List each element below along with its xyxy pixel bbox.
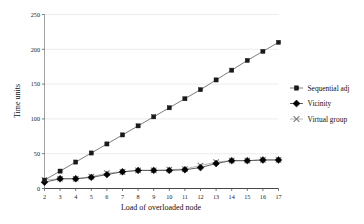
data-point-square-marker bbox=[58, 169, 62, 173]
y-tick-label: 0 bbox=[37, 185, 40, 192]
x-tick-label: 7 bbox=[121, 193, 124, 200]
legend-label: Vicinity bbox=[308, 99, 332, 108]
x-tick-label: 8 bbox=[137, 193, 140, 200]
y-tick-label: 250 bbox=[31, 11, 40, 18]
x-tick-label: 12 bbox=[197, 193, 203, 200]
x-tick-label: 5 bbox=[90, 193, 93, 200]
y-axis-title: Time units bbox=[13, 84, 22, 118]
y-tick-label: 100 bbox=[31, 115, 40, 122]
data-point-square-marker bbox=[136, 124, 140, 128]
x-tick-label: 9 bbox=[152, 193, 155, 200]
x-tick-label: 16 bbox=[260, 193, 266, 200]
data-point-square-marker bbox=[230, 68, 234, 72]
x-axis-title: Load of overloaded node bbox=[121, 203, 202, 212]
chart-figure: 050100150200250 234567891011121314151617… bbox=[0, 0, 364, 224]
data-point-square-marker bbox=[294, 86, 298, 90]
data-point-square-marker bbox=[245, 58, 249, 62]
x-tick-label: 14 bbox=[229, 193, 235, 200]
x-tick-label: 2 bbox=[43, 193, 46, 200]
legend-label: Virtual group bbox=[308, 115, 348, 124]
data-point-square-marker bbox=[89, 151, 93, 155]
data-point-square-marker bbox=[152, 115, 156, 119]
data-point-square-marker bbox=[198, 88, 202, 92]
x-tick-label: 15 bbox=[244, 193, 250, 200]
data-point-square-marker bbox=[261, 49, 265, 53]
y-tick-label: 150 bbox=[31, 80, 40, 87]
x-tick-label: 10 bbox=[166, 193, 172, 200]
x-tick-label: 6 bbox=[105, 193, 108, 200]
data-point-square-marker bbox=[74, 160, 78, 164]
data-point-square-marker bbox=[105, 142, 109, 146]
y-tick-label: 200 bbox=[31, 46, 40, 53]
x-tick-label: 17 bbox=[275, 193, 281, 200]
legend-item[interactable]: Vicinity bbox=[290, 99, 332, 108]
data-point-square-marker bbox=[42, 178, 46, 182]
data-point-square-marker bbox=[167, 106, 171, 110]
line-chart: 050100150200250 234567891011121314151617… bbox=[0, 0, 364, 224]
data-point-square-marker bbox=[214, 78, 218, 82]
x-tick-label: 13 bbox=[213, 193, 219, 200]
data-point-square-marker bbox=[183, 97, 187, 101]
data-point-square-marker bbox=[120, 133, 124, 137]
y-tick-label: 50 bbox=[34, 150, 40, 157]
x-tick-label: 11 bbox=[182, 193, 188, 200]
data-point-square-marker bbox=[276, 40, 280, 44]
chart-background bbox=[0, 0, 364, 224]
x-tick-label: 3 bbox=[59, 193, 62, 200]
x-tick-label: 4 bbox=[74, 193, 77, 200]
legend-label: Sequential adj bbox=[308, 84, 350, 93]
